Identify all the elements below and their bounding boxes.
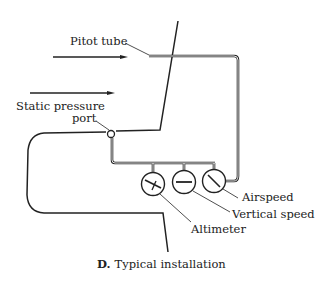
pitot-leader-line	[125, 43, 149, 55]
static-pressure-line	[112, 138, 215, 172]
airflow-arrow-upper	[53, 55, 128, 59]
static-port-leader-line	[96, 121, 109, 130]
vertical-speed-label: Vertical speed	[231, 207, 315, 221]
airflow-arrow-lower	[30, 91, 115, 95]
altimeter-gauge	[142, 173, 165, 196]
figure-caption: D.Typical installation	[97, 257, 226, 271]
static-port	[108, 131, 115, 138]
pitot-tube-label: Pitot tube	[70, 34, 128, 48]
vertical-speed-leader-line	[193, 191, 230, 212]
altimeter-leader-line	[160, 194, 191, 222]
pitot-static-diagram: Pitot tube Static pressure port Airspeed…	[0, 0, 318, 282]
airspeed-leader-line	[223, 189, 238, 198]
static-port-label-line2: port	[72, 111, 97, 125]
airspeed-gauge	[203, 170, 226, 193]
airspeed-label: Airspeed	[241, 190, 294, 204]
altimeter-label: Altimeter	[190, 222, 246, 236]
vertical-speed-gauge	[173, 171, 196, 194]
caption-letter: D.	[97, 257, 111, 271]
caption-text: Typical installation	[115, 257, 227, 271]
